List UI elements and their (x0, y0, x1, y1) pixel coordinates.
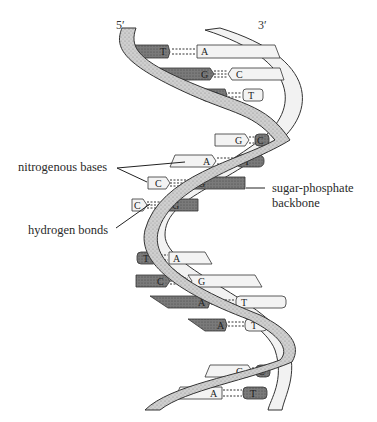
base-pair: G C (215, 134, 269, 146)
backbone-strand-front (119, 28, 295, 410)
base-letter: C (134, 200, 141, 211)
base-letter: T (241, 297, 247, 308)
five-prime-label: 5′ (116, 18, 125, 33)
base-letter: A (203, 156, 211, 167)
base-pair: T A (133, 45, 280, 58)
base-letter: T (248, 90, 254, 101)
base-letter: G (235, 135, 242, 146)
base-pair: C G (136, 275, 262, 287)
base-letter: G (201, 69, 208, 80)
base-letter: A (173, 253, 181, 264)
base-letter: A (201, 46, 209, 57)
backbone-label-line1: sugar-phosphate (272, 181, 354, 195)
hydrogen-bonds-label: hydrogen bonds (28, 223, 108, 237)
base-letter: T (160, 46, 166, 57)
base-letter: C (155, 178, 162, 189)
base-letter: T (250, 388, 256, 399)
nitrogenous-bases-label: nitrogenous bases (18, 160, 107, 174)
backbone-label-line2: backbone (272, 196, 320, 210)
base-letter: A (210, 388, 218, 399)
base-letter: A (217, 320, 225, 331)
dna-diagram: T A G C A T (0, 0, 377, 422)
base-letter: C (157, 276, 164, 287)
base-letter: C (257, 135, 264, 146)
double-helix-illustration: T A G C A T (0, 0, 377, 422)
base-letter: G (198, 276, 205, 287)
base-letter: C (236, 69, 243, 80)
three-prime-label: 3′ (258, 18, 267, 33)
